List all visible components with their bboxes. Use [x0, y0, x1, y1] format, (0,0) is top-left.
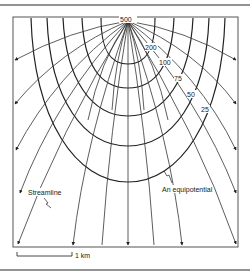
label-200: 200 [145, 44, 157, 51]
label-75: 75 [174, 75, 182, 82]
label-100: 100 [159, 59, 171, 66]
streamline-annotation: Streamline [27, 188, 62, 208]
scale-bar: 1 km [17, 252, 90, 259]
streamline-label: Streamline [28, 189, 62, 196]
streamlines [15, 21, 236, 245]
label-50: 50 [187, 91, 195, 98]
diagram-frame [13, 17, 238, 247]
flow-net-diagram: 500 200 100 75 50 25 Streamline An equip… [0, 0, 250, 275]
label-500: 500 [120, 16, 132, 23]
equipotential-label: An equipotential [162, 186, 213, 194]
equipotential-annotation: An equipotential [161, 171, 213, 194]
scale-bar-label: 1 km [75, 252, 90, 259]
label-25: 25 [201, 106, 209, 113]
